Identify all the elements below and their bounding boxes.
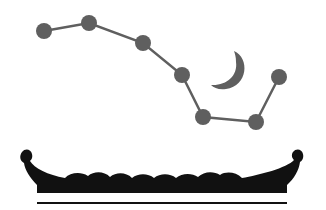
star-icon bbox=[271, 69, 287, 85]
constellation-stars bbox=[36, 15, 287, 130]
boat-icon bbox=[20, 150, 303, 193]
star-icon bbox=[174, 67, 190, 83]
star-icon bbox=[195, 109, 211, 125]
star-icon bbox=[81, 15, 97, 31]
star-icon bbox=[248, 114, 264, 130]
illustration bbox=[0, 0, 326, 210]
crescent-moon-icon bbox=[211, 51, 244, 89]
star-icon bbox=[36, 23, 52, 39]
star-icon bbox=[135, 35, 151, 51]
ground-line bbox=[37, 202, 287, 204]
